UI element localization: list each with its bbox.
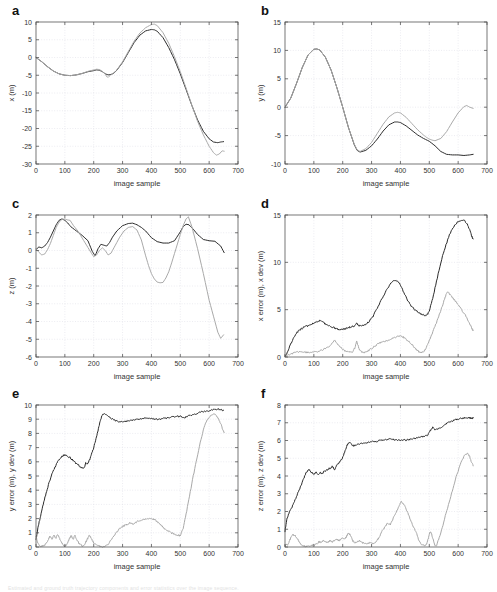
y-tick-label: -15	[22, 107, 32, 114]
series-e-0	[36, 409, 224, 540]
figure-container: f0100200300400500600700012345678image sa…	[0, 0, 497, 592]
x-tick-label: 400	[146, 550, 158, 557]
x-tick-label: 600	[452, 360, 464, 367]
y-tick-label: 6	[28, 458, 32, 465]
chart-panel-e: e0100200300400500600700012345678910image…	[0, 385, 248, 580]
y-tick-label: -2	[26, 283, 32, 290]
series-e-1	[36, 414, 224, 548]
x-tick-label: 600	[203, 550, 215, 557]
y-tick-label: 6	[277, 437, 281, 444]
chart-svg-f: 0100200300400500600700012345678image sam…	[249, 385, 497, 580]
x-tick-label: 500	[174, 360, 186, 367]
gridlines	[36, 215, 238, 357]
y-tick-label: -3	[26, 300, 32, 307]
x-tick-label: 0	[283, 550, 287, 557]
x-tick-label: 500	[423, 167, 435, 174]
x-tick-label: 100	[308, 360, 320, 367]
axis-frame	[285, 215, 487, 357]
chart-panel-b: b0100200300400500600700-10-5051015image …	[249, 2, 497, 197]
x-tick-label: 0	[283, 360, 287, 367]
y-tick-label: 10	[24, 19, 32, 26]
x-tick-label: 0	[283, 167, 287, 174]
chart-panel-d: d0100200300400500600700051015image sampl…	[249, 195, 497, 390]
y-axis-title: y (m)	[256, 84, 265, 102]
y-axis-title: z (m)	[7, 277, 16, 295]
y-axis-title: z error (m), z dev (m)	[256, 440, 265, 511]
y-tick-label: 7	[277, 419, 281, 426]
x-axis-title: image sample	[114, 372, 161, 381]
y-tick-label: -1	[26, 265, 32, 272]
x-tick-label: 600	[203, 167, 215, 174]
series-a-0	[36, 29, 224, 142]
x-tick-label: 700	[232, 167, 244, 174]
x-tick-label: 200	[88, 167, 100, 174]
y-tick-label: 4	[277, 473, 281, 480]
y-tick-label: -25	[22, 143, 32, 150]
chart-panel-f: f0100200300400500600700012345678image sa…	[249, 385, 497, 580]
x-tick-label: 600	[452, 167, 464, 174]
y-tick-label: -30	[22, 161, 32, 168]
x-tick-label: 100	[59, 550, 71, 557]
y-tick-label: 5	[277, 455, 281, 462]
x-tick-label: 0	[34, 360, 38, 367]
y-axis-title: y error (m), y dev (m)	[7, 440, 16, 511]
x-tick-label: 300	[366, 360, 378, 367]
chart-svg-e: 0100200300400500600700012345678910image …	[0, 385, 248, 580]
series-c-1	[36, 217, 224, 339]
chart-svg-d: 0100200300400500600700051015image sample…	[249, 195, 497, 390]
panel-label-d: d	[261, 197, 269, 210]
series-d-0	[285, 220, 473, 356]
x-tick-label: 400	[395, 167, 407, 174]
x-tick-label: 200	[88, 550, 100, 557]
x-tick-label: 200	[337, 360, 349, 367]
y-tick-label: 0	[277, 544, 281, 551]
x-tick-label: 700	[481, 360, 493, 367]
x-tick-label: 500	[174, 550, 186, 557]
x-tick-label: 200	[337, 550, 349, 557]
x-tick-label: 100	[308, 550, 320, 557]
x-tick-label: 400	[146, 360, 158, 367]
panel-label-c: c	[12, 197, 19, 210]
x-axis-title: image sample	[114, 179, 161, 188]
x-tick-label: 500	[423, 550, 435, 557]
y-tick-label: 10	[24, 402, 32, 409]
x-tick-label: 700	[481, 167, 493, 174]
panel-label-a: a	[12, 4, 19, 17]
series-f-1	[285, 453, 473, 547]
y-tick-label: 0	[28, 544, 32, 551]
y-tick-label: -6	[26, 354, 32, 361]
chart-svg-b: 0100200300400500600700-10-5051015image s…	[249, 2, 497, 197]
x-tick-label: 300	[366, 550, 378, 557]
y-tick-label: 1	[277, 526, 281, 533]
y-tick-label: 10	[273, 47, 281, 54]
x-tick-label: 200	[337, 167, 349, 174]
y-tick-label: -5	[275, 132, 281, 139]
y-tick-label: 8	[277, 402, 281, 409]
x-tick-label: 400	[395, 360, 407, 367]
x-tick-label: 700	[232, 550, 244, 557]
y-tick-label: -5	[26, 72, 32, 79]
y-tick-label: 3	[277, 490, 281, 497]
x-tick-label: 700	[481, 550, 493, 557]
x-tick-label: 100	[59, 360, 71, 367]
x-tick-label: 400	[146, 167, 158, 174]
x-tick-label: 300	[117, 167, 129, 174]
y-tick-label: 0	[28, 247, 32, 254]
x-tick-label: 600	[452, 550, 464, 557]
gridlines	[285, 22, 487, 164]
x-tick-label: 0	[34, 167, 38, 174]
x-axis-title: image sample	[114, 562, 161, 571]
y-tick-label: 5	[28, 36, 32, 43]
x-tick-label: 300	[117, 550, 129, 557]
y-tick-label: 1	[28, 229, 32, 236]
chart-panel-a: a0100200300400500600700-30-25-20-15-10-5…	[0, 2, 248, 197]
x-tick-label: 300	[366, 167, 378, 174]
gridlines	[285, 215, 487, 357]
x-axis-title: image sample	[363, 179, 410, 188]
y-tick-label: 5	[277, 306, 281, 313]
x-tick-label: 200	[88, 360, 100, 367]
y-tick-label: 15	[273, 212, 281, 219]
y-tick-label: 0	[277, 354, 281, 361]
y-tick-label: 5	[28, 473, 32, 480]
panel-label-b: b	[261, 4, 269, 17]
